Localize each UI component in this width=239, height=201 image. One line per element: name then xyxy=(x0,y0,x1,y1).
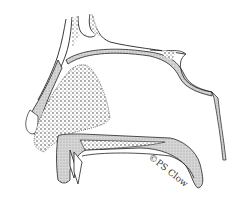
pharyngeal-wall xyxy=(212,92,226,160)
incisor-teeth xyxy=(70,150,82,184)
frontal-bone-marrow xyxy=(72,16,80,48)
nasal-cavity-illustration xyxy=(0,0,239,201)
frontal-bone-marrow-2 xyxy=(90,14,100,36)
